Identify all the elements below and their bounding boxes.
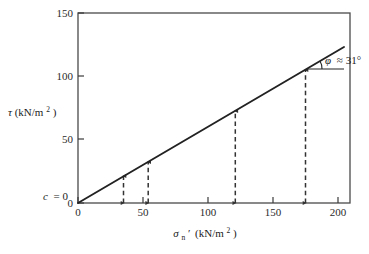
y-axis-ticks <box>78 13 84 203</box>
cohesion-symbol: c <box>43 190 48 202</box>
y-axis-unit-open: (kN/m <box>15 106 44 119</box>
cohesion-equals-zero: = 0 <box>54 190 69 202</box>
phi-value: ≈ 31° <box>337 54 361 66</box>
y-axis-tick-labels: 0 50 100 150 <box>57 7 74 209</box>
y-tick-label-100: 100 <box>57 70 74 82</box>
y-tick-label-150: 150 <box>57 7 74 19</box>
plot-frame <box>78 13 350 203</box>
y-axis-title-text: τ (kN/m 2 ) <box>8 102 57 119</box>
x-axis-unit-close: ) <box>233 227 237 240</box>
y-axis-unit-close: ) <box>53 106 57 119</box>
friction-angle-annotation: φ ≈ 31° <box>307 54 361 69</box>
x-axis-title-text: σ n ′ (kN/m 2 ) <box>173 223 237 242</box>
plot-frame-rect <box>78 13 350 203</box>
stress-path-lines <box>124 70 306 203</box>
y-axis-title: τ (kN/m 2 ) <box>8 102 57 119</box>
phi-symbol: φ <box>325 54 331 66</box>
x-axis-prime: ′ <box>188 227 190 239</box>
friction-angle-arc-icon <box>320 61 322 69</box>
x-axis-title: σ n ′ (kN/m 2 ) <box>173 223 237 242</box>
x-axis-subscript: n <box>181 233 185 242</box>
friction-angle-text: φ ≈ 31° <box>325 54 361 66</box>
y-axis-unit-exponent: 2 <box>46 105 50 114</box>
x-axis-symbol: σ <box>173 227 179 239</box>
shear-strength-envelope-chart: 0 50 100 150 200 0 50 100 150 c = 0 τ (k… <box>0 0 369 254</box>
x-tick-label-150: 150 <box>265 206 282 218</box>
envelope-segment <box>78 47 344 203</box>
y-axis-symbol: τ <box>8 106 13 118</box>
x-axis-unit-open: (kN/m <box>195 227 224 240</box>
figure-container: 0 50 100 150 200 0 50 100 150 c = 0 τ (k… <box>0 0 369 254</box>
y-tick-label-0: 0 <box>68 197 74 209</box>
y-tick-label-50: 50 <box>62 133 74 145</box>
failure-envelope-line <box>78 47 344 203</box>
x-axis-unit-exponent: 2 <box>227 226 231 235</box>
x-tick-label-200: 200 <box>330 206 347 218</box>
cohesion-intercept-label: c = 0 <box>43 190 69 202</box>
x-tick-label-0: 0 <box>75 206 81 218</box>
x-tick-label-100: 100 <box>200 206 217 218</box>
x-axis-tick-labels: 0 50 100 150 200 <box>75 206 347 218</box>
x-tick-label-50: 50 <box>138 206 150 218</box>
x-axis-ticks <box>78 197 338 203</box>
figure-caption <box>0 247 369 254</box>
cohesion-label-text: c = 0 <box>43 190 69 202</box>
